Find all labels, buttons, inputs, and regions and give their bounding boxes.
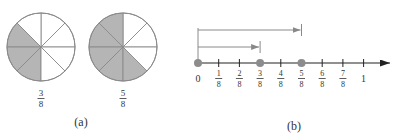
panel-a-fraction-circles: 3858 — [7, 13, 157, 109]
whole-number-label: 0 — [196, 73, 201, 84]
fraction-numerator: 6 — [320, 69, 324, 78]
fraction-label: 38 — [38, 88, 45, 109]
fraction-numerator: 4 — [279, 69, 283, 78]
panel-a-caption: (a) — [74, 115, 87, 129]
fraction-label: 0 — [196, 73, 201, 84]
fraction-denominator: 8 — [237, 80, 241, 89]
whole-number-label: 1 — [361, 73, 366, 84]
fraction-diagram: 3858 (a) 0182838485868781 (b) — [0, 0, 400, 140]
fraction-label: 58 — [298, 69, 305, 89]
fraction-denominator: 8 — [300, 80, 304, 89]
fraction-denominator: 8 — [279, 80, 283, 89]
fraction-label: 1 — [361, 73, 366, 84]
fraction-label: 68 — [319, 69, 326, 89]
arrow-five-eighths — [198, 24, 302, 36]
fraction-label: 48 — [277, 69, 284, 89]
fraction-numerator: 1 — [217, 69, 221, 78]
fraction-denominator: 8 — [217, 80, 221, 89]
fraction-label: 18 — [215, 69, 222, 89]
fraction-denominator: 8 — [121, 99, 126, 109]
panel-b-caption: (b) — [287, 119, 301, 133]
panel-b-number-line: 0182838485868781 — [194, 24, 390, 89]
pie-three-eighths: 38 — [7, 13, 75, 109]
fraction-denominator: 8 — [258, 80, 262, 89]
arrow-three-eighths — [198, 41, 260, 53]
point-dot — [298, 59, 306, 67]
fraction-label: 28 — [236, 69, 243, 89]
point-dot — [256, 59, 264, 67]
fraction-denominator: 8 — [320, 80, 324, 89]
fraction-numerator: 5 — [121, 88, 126, 98]
fraction-numerator: 3 — [39, 88, 44, 98]
fraction-numerator: 5 — [300, 69, 304, 78]
fraction-numerator: 7 — [341, 69, 345, 78]
fraction-label: 58 — [120, 88, 127, 109]
fraction-numerator: 3 — [258, 69, 262, 78]
fraction-label: 78 — [339, 69, 346, 89]
fraction-numerator: 2 — [237, 69, 241, 78]
pie-five-eighths: 58 — [89, 13, 157, 109]
fraction-denominator: 8 — [341, 80, 345, 89]
point-dot — [194, 59, 202, 67]
fraction-label: 38 — [257, 69, 264, 89]
fraction-denominator: 8 — [39, 99, 44, 109]
